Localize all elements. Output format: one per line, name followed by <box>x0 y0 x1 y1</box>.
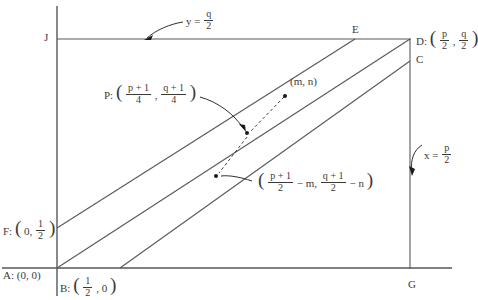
denominator: 2 <box>440 40 449 52</box>
fraction-1-over-2-F: 1 2 <box>36 219 45 241</box>
point-p-lower-dot <box>214 174 218 178</box>
fraction-q-plus-1-over-2: q + 1 2 <box>321 171 346 193</box>
zero-coordinate-B: , 0 <box>96 283 107 294</box>
minus-m-term: − m, <box>297 178 317 189</box>
equation-label-x: x = p 2 <box>424 144 452 166</box>
numerator: q + 1 <box>161 83 186 94</box>
x-equation-arrow <box>411 145 422 172</box>
numerator: p + 1 <box>268 171 293 182</box>
vertex-label-D-text: D: <box>416 36 427 47</box>
denominator: 2 <box>268 182 293 194</box>
numerator: p <box>442 143 451 154</box>
vertex-label-G: G <box>408 279 416 290</box>
vertex-label-B-text: B: <box>60 283 70 294</box>
vertex-label-C: C <box>416 54 423 65</box>
vertex-label-F-text: F: <box>3 226 12 237</box>
numerator: q + 1 <box>321 171 346 182</box>
vertex-label-E: E <box>352 24 359 35</box>
point-label-reflected: ( p + 1 2 − m, q + 1 2 − n ) <box>258 172 373 194</box>
vertex-label-F: F: ( 0, 1 2 ) <box>3 220 55 242</box>
comma-P: , <box>155 90 158 101</box>
denominator: 2 <box>442 154 451 166</box>
numerator: q <box>204 9 213 20</box>
point-label-P-prefix: P: <box>104 90 113 101</box>
denominator: 2 <box>83 287 92 299</box>
vertex-label-B: B: ( 1 2 , 0 ) <box>60 277 116 299</box>
fraction-p-plus-1-over-2: p + 1 2 <box>268 171 293 193</box>
fraction-q-over-2-equation: q 2 <box>204 9 213 31</box>
numerator: p <box>440 29 449 40</box>
numerator: 1 <box>36 219 45 230</box>
minus-n-term: − n <box>349 178 363 189</box>
denominator: 2 <box>321 182 346 194</box>
fraction-p-over-2-D: p 2 <box>440 29 449 51</box>
point-label-P: P: ( p + 1 4 , q + 1 4 ) <box>104 84 196 106</box>
fraction-p-over-2-equation: p 2 <box>442 143 451 165</box>
point-label-m-n: (m, n) <box>290 76 317 87</box>
point-m-n-dot <box>283 94 287 98</box>
point-p-upper-dot <box>245 131 249 135</box>
fraction-q-over-2-D: q 2 <box>459 29 468 51</box>
vertex-label-D: D: ( p 2 , q 2 ) <box>416 30 478 52</box>
vertex-label-A: A: (0, 0) <box>3 270 41 281</box>
denominator: 2 <box>204 20 213 32</box>
diagonal-F-to-E <box>57 39 355 228</box>
numerator: p + 1 <box>126 83 151 94</box>
denominator: 4 <box>126 94 151 106</box>
denominator: 4 <box>161 94 186 106</box>
numerator: 1 <box>83 276 92 287</box>
denominator: 2 <box>459 40 468 52</box>
numerator: q <box>459 29 468 40</box>
fraction-q-plus-1-over-4: q + 1 4 <box>161 83 186 105</box>
zero-coordinate-F: 0, <box>24 226 32 237</box>
denominator: 2 <box>36 230 45 242</box>
equation-label-y: y = q 2 <box>186 10 214 32</box>
vertex-label-J: J <box>44 32 48 43</box>
equation-lhs-x: x = <box>424 150 438 161</box>
comma-D: , <box>453 36 456 47</box>
fraction-p-plus-1-over-4: p + 1 4 <box>126 83 151 105</box>
fraction-1-over-2-B: 1 2 <box>83 276 92 298</box>
diagonal-A-to-D <box>57 39 410 268</box>
equation-lhs-y: y = <box>186 16 200 27</box>
p-to-lower-dashed <box>219 137 247 173</box>
